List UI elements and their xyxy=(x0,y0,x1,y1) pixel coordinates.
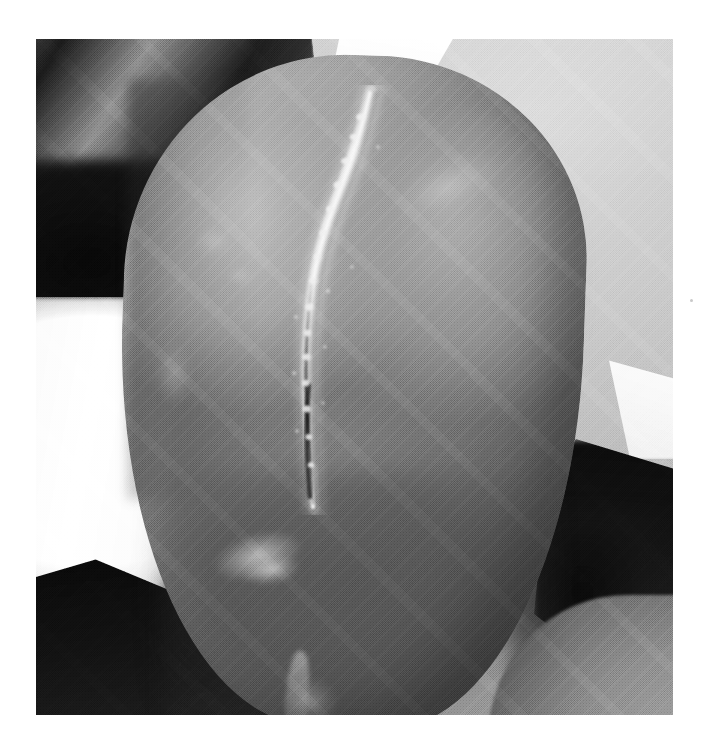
page-speck xyxy=(690,299,693,302)
scaly-patch-upper-left-b xyxy=(224,263,258,289)
scrotum-left-edge-shading xyxy=(128,79,248,499)
clinical-photograph xyxy=(36,39,673,715)
scaly-patch-left-margin xyxy=(154,339,194,409)
page-root xyxy=(0,0,708,742)
scrotum-lower-shading xyxy=(156,469,556,715)
scaly-patch-upper-left xyxy=(191,223,237,259)
